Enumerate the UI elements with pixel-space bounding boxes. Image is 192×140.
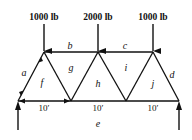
truss-diagram: 1000 lb 2000 lb 1000 lb a b c d e f g h … xyxy=(0,0,192,140)
dimension-label-2: 10′ xyxy=(93,103,104,113)
region-label-g: g xyxy=(69,62,74,73)
arrow-up-icon xyxy=(176,101,182,110)
member-force-arrows xyxy=(19,57,70,104)
region-label-a: a xyxy=(22,67,27,78)
region-label-b: b xyxy=(68,40,73,51)
dimension-label-1: 10′ xyxy=(39,103,50,113)
region-label-e: e xyxy=(96,118,101,129)
load-label-right: 1000 lb xyxy=(138,12,167,22)
truss-svg: 1000 lb 2000 lb 1000 lb a b c d e f g h … xyxy=(0,0,192,140)
arrow-up-icon xyxy=(15,101,21,110)
member-right-end xyxy=(153,52,179,101)
region-label-f: f xyxy=(41,77,45,88)
region-label-c: c xyxy=(123,40,128,51)
load-label-middle: 2000 lb xyxy=(83,12,112,22)
dimension-label-3: 10′ xyxy=(148,103,159,113)
applied-loads xyxy=(44,24,153,51)
member-web-2 xyxy=(71,52,98,101)
arrowhead-icon xyxy=(64,99,70,104)
arrowhead-icon xyxy=(19,99,25,104)
region-label-j: j xyxy=(150,78,155,89)
member-web-1 xyxy=(44,52,71,101)
region-label-d: d xyxy=(170,69,176,80)
member-web-4 xyxy=(126,52,153,101)
region-label-h: h xyxy=(96,78,101,89)
load-label-left: 1000 lb xyxy=(29,12,58,22)
member-web-3 xyxy=(98,52,126,101)
region-label-i: i xyxy=(125,62,128,73)
